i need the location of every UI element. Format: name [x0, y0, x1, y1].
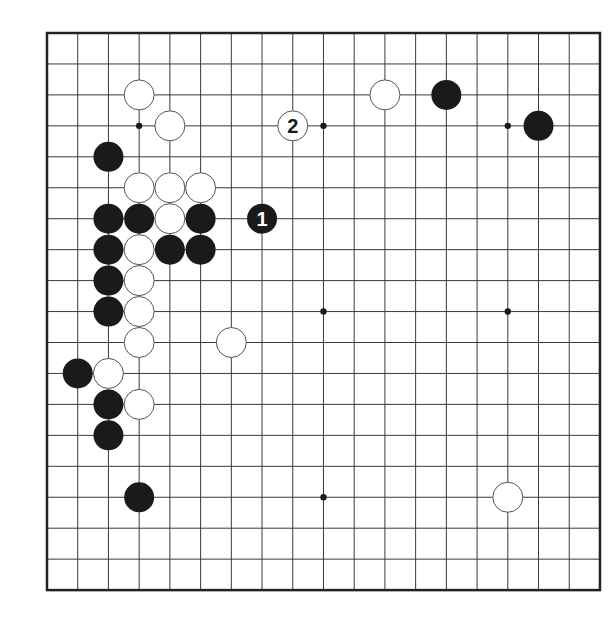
black-stone	[93, 266, 123, 296]
move-number-label: 1	[256, 208, 267, 230]
star-point-icon	[320, 494, 326, 500]
black-stone	[186, 204, 216, 234]
white-stone	[124, 235, 154, 265]
white-stone	[124, 80, 154, 110]
star-point-icon	[320, 123, 326, 129]
page-background	[0, 0, 615, 627]
white-stone	[216, 328, 246, 358]
black-stone	[431, 80, 461, 110]
go-board: 12	[0, 0, 615, 627]
white-stone	[370, 80, 400, 110]
white-stone	[155, 111, 185, 141]
black-stone	[124, 204, 154, 234]
black-stone	[93, 297, 123, 327]
black-stone	[93, 235, 123, 265]
white-stone	[93, 358, 123, 388]
white-stone	[124, 297, 154, 327]
black-stone	[93, 420, 123, 450]
white-stone	[124, 266, 154, 296]
black-stone	[63, 358, 93, 388]
white-stone	[124, 389, 154, 419]
black-stone	[186, 235, 216, 265]
numbered-move-2: 2	[278, 111, 308, 141]
star-point-icon	[505, 308, 511, 314]
star-point-icon	[320, 308, 326, 314]
white-stone	[124, 328, 154, 358]
black-stone	[524, 111, 554, 141]
star-point-icon	[136, 123, 142, 129]
black-stone	[93, 389, 123, 419]
white-stone	[186, 173, 216, 203]
black-stone	[93, 142, 123, 172]
black-stone	[93, 204, 123, 234]
move-number-label: 2	[287, 115, 298, 137]
black-stone	[155, 235, 185, 265]
white-stone	[493, 482, 523, 512]
black-stone	[124, 482, 154, 512]
star-point-icon	[505, 123, 511, 129]
numbered-move-1: 1	[247, 204, 277, 234]
white-stone	[155, 173, 185, 203]
white-stone	[124, 173, 154, 203]
go-board-diagram: 12	[0, 0, 615, 627]
white-stone	[155, 204, 185, 234]
